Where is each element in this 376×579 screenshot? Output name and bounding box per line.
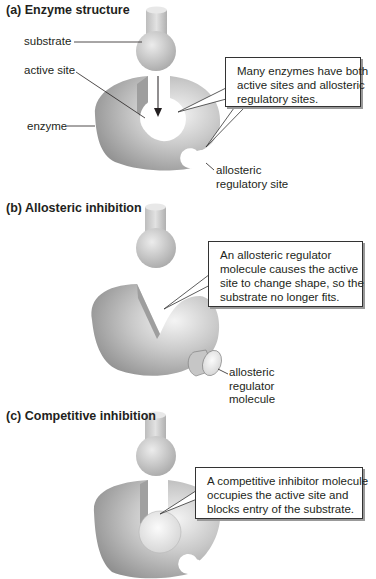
panel-c-title: (c) Competitive inhibition	[6, 409, 156, 423]
label-allosteric-regulator: allosteric regulator molecule	[229, 366, 275, 407]
substrate-b	[136, 204, 176, 269]
label-allosteric-site: allosteric regulatory site	[216, 164, 288, 191]
callout-b: An allosteric regulator molecule causes …	[208, 241, 363, 307]
competitive-inhibitor	[139, 511, 181, 553]
label-substrate: substrate	[24, 35, 71, 49]
allosteric-regulator-molecule	[188, 348, 225, 379]
panel-a-title: (a) Enzyme structure	[6, 3, 130, 17]
label-active-site: active site	[24, 64, 75, 78]
substrate-a	[136, 7, 176, 72]
callout-c: A competitive inhibitor molecule occupie…	[195, 467, 363, 519]
callout-a: Many enzymes have both active sites and …	[225, 57, 361, 107]
allosteric-site-hole	[192, 150, 210, 168]
panel-b-title: (b) Allosteric inhibition	[6, 201, 142, 215]
label-enzyme: enzyme	[27, 120, 67, 134]
active-site-hole	[140, 99, 178, 137]
